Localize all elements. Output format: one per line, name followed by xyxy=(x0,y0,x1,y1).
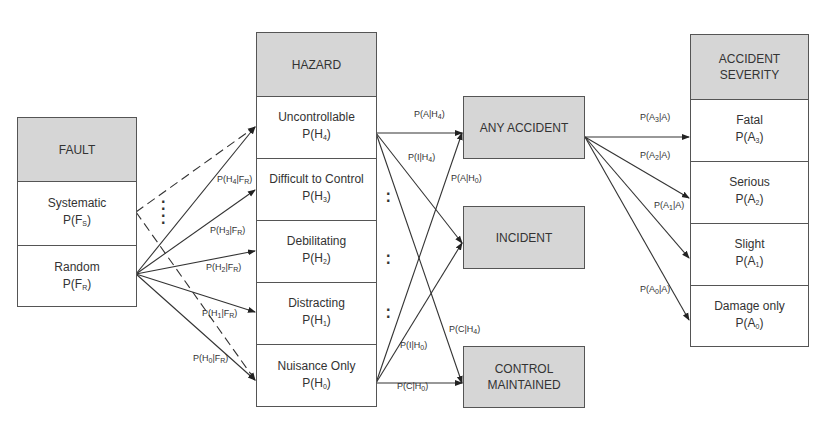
edge-systematic-h4 xyxy=(136,127,255,212)
edge-label-a-h4: P(A|H4) xyxy=(414,109,445,120)
ellipsis-dots: ·· xyxy=(386,190,391,204)
fault-header: FAULT xyxy=(18,118,136,181)
ellipsis-dots: ·· xyxy=(386,306,391,320)
edge-label-a0-a: P(A0|A) xyxy=(640,284,670,295)
edge-random-h0 xyxy=(136,274,255,380)
fault-box: FAULT Systematic P(FS) Random P(FR) xyxy=(17,117,137,307)
edge-label-h2-fr: P(H2|FR) xyxy=(206,262,241,273)
outcome-incident: INCIDENT xyxy=(463,206,585,269)
severity-header: ACCIDENT SEVERITY xyxy=(691,35,808,99)
hazard-item-h0: Nuisance Only P(H0) xyxy=(257,344,376,407)
ellipsis-dots: ·· xyxy=(386,252,391,266)
edge-label-i-h0: P(I|H0) xyxy=(400,340,427,351)
severity-item-serious: Serious P(A2) xyxy=(691,161,808,223)
ellipsis-dots: ···· xyxy=(161,198,166,226)
edge-label-i-h4: P(I|H4) xyxy=(408,152,435,163)
hazard-item-h1: Distracting P(H1) xyxy=(257,282,376,344)
edge-label-h0-fr: P(H0|FR) xyxy=(193,353,228,364)
hazard-header: HAZARD xyxy=(257,33,376,96)
fault-item-random: Random P(FR) xyxy=(18,245,136,308)
hazard-item-h4: Uncontrollable P(H4) xyxy=(257,96,376,158)
severity-item-damage-only: Damage only P(A0) xyxy=(691,285,808,347)
edge-label-a1-a: P(A1|A) xyxy=(654,200,684,211)
outcome-control-maintained: CONTROL MAINTAINED xyxy=(463,346,585,408)
edge-label-c-h0: P(C|H0) xyxy=(397,381,428,392)
hazard-item-h3: Difficult to Control P(H3) xyxy=(257,158,376,220)
severity-item-slight: Slight P(A1) xyxy=(691,223,808,285)
edge-label-a3-a: P(A3|A) xyxy=(640,112,670,123)
hazard-item-h2: Debilitating P(H2) xyxy=(257,220,376,282)
edge-label-c-h4: P(C|H4) xyxy=(449,324,480,335)
hazard-box: HAZARD Uncontrollable P(H4) Difficult to… xyxy=(256,32,377,407)
outcome-any-accident: ANY ACCIDENT xyxy=(463,96,585,159)
severity-item-fatal: Fatal P(A3) xyxy=(691,99,808,161)
severity-box: ACCIDENT SEVERITY Fatal P(A3) Serious P(… xyxy=(690,34,809,347)
edge-label-a-h0: P(A|H0) xyxy=(451,173,482,184)
edge-label-a2-a: P(A2|A) xyxy=(640,150,670,161)
edge-label-h4-fr: P(H4|FR) xyxy=(217,174,252,185)
edge-random-h4 xyxy=(136,127,255,274)
edge-label-h1-fr: P(H1|FR) xyxy=(202,308,237,319)
edge-label-h3-fr: P(H3|FR) xyxy=(210,225,245,236)
edge-random-h1 xyxy=(136,274,255,312)
fault-item-systematic: Systematic P(FS) xyxy=(18,181,136,245)
